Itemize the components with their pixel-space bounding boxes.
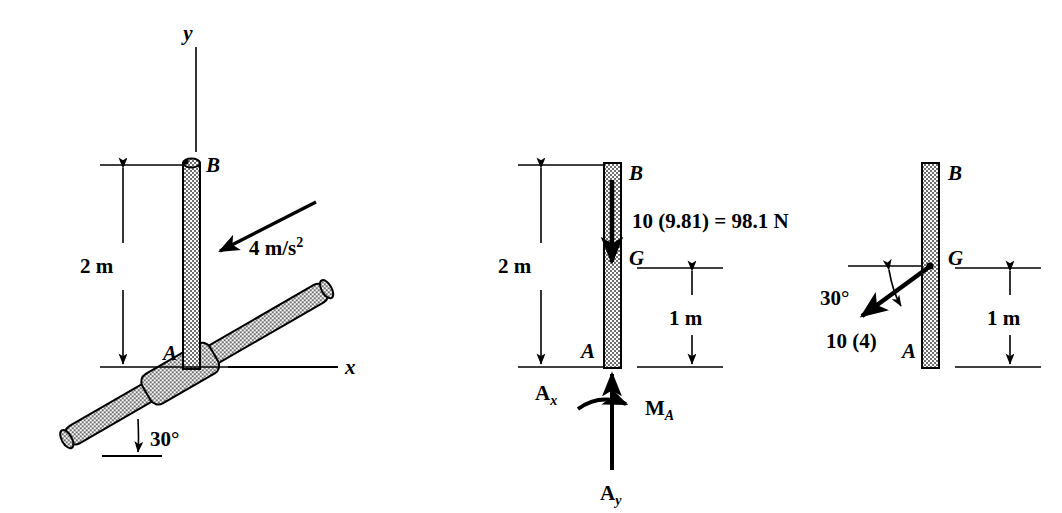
moment-ma-arc xyxy=(578,400,626,409)
kd-angle-30-label: 30° xyxy=(820,286,849,310)
weight-label: 10 (9.81) = 98.1 N xyxy=(632,209,789,233)
ma-force-arrow xyxy=(862,267,929,316)
panel-free-body-diagram: B G A 10 (9.81) = 98.1 N 2 m 1 m Ay Ax M… xyxy=(498,161,789,508)
reaction-ax-label: Ax xyxy=(535,381,557,408)
kd-dimension-1m-label: 1 m xyxy=(987,306,1021,330)
rod-body xyxy=(183,163,200,369)
ma-label: 10 (4) xyxy=(826,329,877,353)
fbd-point-g-label: G xyxy=(629,246,644,270)
fbd-point-a-label: A xyxy=(579,339,595,363)
angle-30-label: 30° xyxy=(150,427,179,451)
x-axis-label: x xyxy=(344,355,356,379)
point-a-label: A xyxy=(161,341,177,365)
kd-point-g-label: G xyxy=(948,246,963,270)
panel-kinetic-diagram: B G A 30° 10 (4) 1 m xyxy=(820,161,1041,368)
engineering-figure: y B A 2 xyxy=(0,0,1062,513)
point-b-label: B xyxy=(205,153,220,177)
fbd-dimension-2m-label: 2 m xyxy=(498,254,532,278)
fbd-point-b-label: B xyxy=(628,161,643,185)
angle-arc-30 xyxy=(138,419,139,452)
fbd-dimension-1m-label: 1 m xyxy=(669,306,703,330)
panel-space-diagram: y B A 2 xyxy=(54,21,356,456)
reaction-ay-label: Ay xyxy=(600,481,622,508)
kd-point-b-label: B xyxy=(947,161,962,185)
rod-top-marker xyxy=(183,159,188,164)
moment-ma-label: MA xyxy=(645,396,674,423)
dimension-2m-label: 2 m xyxy=(80,254,114,278)
vertical-rod-AB xyxy=(183,159,200,370)
shaft-collar xyxy=(138,339,223,407)
acceleration-label: 4 m/s2 xyxy=(249,235,303,260)
figure-canvas: y B A 2 xyxy=(0,0,1062,513)
y-axis-label: y xyxy=(180,21,193,45)
kd-point-a-label: A xyxy=(900,339,916,363)
